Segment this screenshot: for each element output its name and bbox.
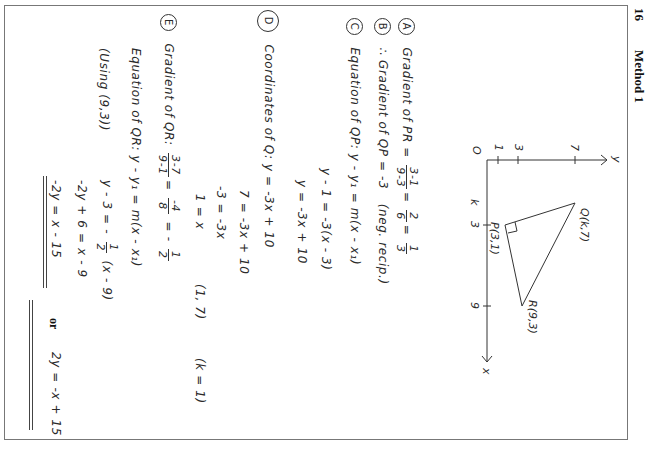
origin-label: O — [470, 146, 483, 155]
double-underline — [32, 300, 33, 430]
part-d-marker: D — [257, 10, 279, 32]
segment-qr — [522, 203, 575, 306]
part-d-line-3: -3 = -3x — [214, 186, 228, 240]
part-e-marker: E — [160, 14, 177, 31]
alternative-equation: 2y = -x + 15 — [49, 352, 63, 436]
double-underline — [43, 176, 44, 288]
part-a-marker: A — [398, 18, 415, 35]
y-tick-label-1: 1 — [492, 144, 505, 151]
point-r-label: R(9,3) — [526, 300, 539, 334]
fraction: 12 — [156, 249, 181, 261]
part-d-k-value: (k = 1) — [193, 358, 207, 404]
double-underline — [46, 176, 47, 288]
x-tick-label-9: 9 — [468, 302, 481, 309]
part-d-result: (1, 7) — [193, 284, 207, 320]
y-axis-label: y — [610, 155, 623, 163]
part-d-line-4: 1 = x — [193, 194, 207, 229]
part-b-text: ∴ Gradient of QP = -3 — [376, 47, 390, 189]
part-c-text: Equation of QP: y - y₁ = m(x - x₁) — [348, 47, 362, 265]
y-tick-label-3: 3 — [512, 144, 525, 151]
rotated-scanned-page: 16 Method 1 O y x 1 3 7 k 3 9 Q(k,7) P(3… — [0, 0, 651, 450]
or-label: or — [46, 318, 61, 329]
part-c-marker: C — [346, 18, 363, 35]
double-underline — [29, 300, 30, 430]
k-label: k — [468, 199, 481, 206]
equation-qr-label: Equation of QR: y - y₁ = m(x - x₁) — [129, 48, 143, 267]
part-e-text: Gradient of QR: — [162, 43, 176, 145]
part-d-line-2: 7 = -3x + 10 — [237, 190, 251, 275]
part-b-marker: B — [374, 18, 391, 35]
part-b-note: (neg. recip.) — [376, 204, 390, 285]
fraction: 13 — [394, 243, 419, 255]
part-e-line: E Gradient of QR: 3-79-1= -48 = - 12 — [156, 14, 181, 264]
part-b-line: B ∴ Gradient of QP = -3 (neg. recip.) — [374, 18, 391, 285]
y-tick-label-7: 7 — [568, 144, 581, 151]
x-tick-label-3: 3 — [468, 221, 481, 228]
x-axis-label: x — [480, 367, 493, 375]
part-e-line-4: -2y = x - 15 — [49, 180, 63, 258]
part-d-text: Coordinates of Q: y = -3x + 10 — [262, 44, 276, 248]
part-e-line-2: y - 3 = - 12 (x - 9) — [94, 180, 119, 301]
fraction: 3-19-3 — [394, 165, 419, 189]
segment-pr — [505, 225, 522, 306]
part-a-line: A Gradient of PR = 3-19-3= 26= 13 — [394, 18, 419, 257]
segment-qp — [505, 203, 575, 225]
fraction: -48 — [156, 198, 181, 214]
point-q-label: Q(k,7) — [578, 208, 591, 242]
part-c-line: C Equation of QP: y - y₁ = m(x - x₁) — [346, 18, 363, 265]
part-c-line-3: y = -3x + 10 — [295, 180, 309, 264]
fraction: 3-79-1 — [156, 153, 181, 177]
part-c-line-2: y - 1 = -3(x - 3) — [319, 168, 333, 271]
point-p-label: P(3,1) — [488, 222, 501, 255]
using-point: (Using (9,3)) — [97, 48, 111, 131]
fraction: 26 — [394, 210, 419, 222]
part-e-line-3: -2y + 6 = x - 9 — [75, 180, 89, 278]
fraction: 12 — [94, 242, 119, 254]
part-d-line: D Coordinates of Q: y = -3x + 10 — [257, 10, 279, 248]
part-a-text: Gradient of PR = — [400, 47, 414, 157]
